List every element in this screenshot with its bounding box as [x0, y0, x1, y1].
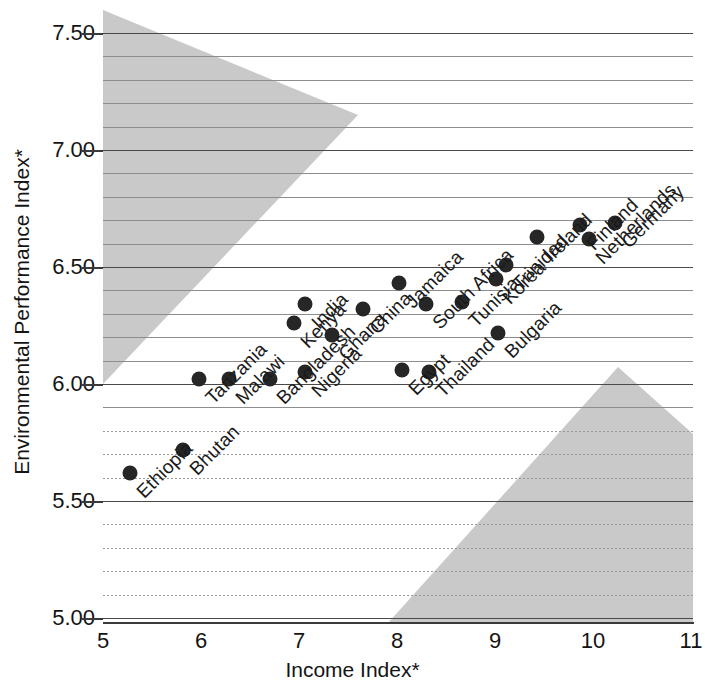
gridline-5.50	[103, 501, 693, 502]
gridline-6.90	[103, 173, 693, 174]
gridline-5.40	[103, 524, 693, 525]
x-tick-label: 8	[391, 628, 403, 654]
data-point	[394, 362, 409, 377]
gridline-7.30	[103, 80, 693, 81]
x-axis-line	[103, 622, 694, 624]
data-point	[297, 297, 312, 312]
gridline-5.60	[103, 478, 693, 479]
gridline-5.30	[103, 548, 693, 549]
plot-area: EthiopiaBhutanTanzaniaMalawiBangladeshKe…	[103, 10, 693, 623]
y-tick-mark	[82, 150, 103, 152]
gridline-7.40	[103, 56, 693, 57]
gridline-7.00	[103, 150, 693, 151]
gridline-5.90	[103, 407, 693, 408]
y-tick-mark	[82, 501, 103, 503]
data-point	[490, 325, 505, 340]
gridline-6.80	[103, 197, 693, 198]
gridline-5.00	[103, 618, 693, 619]
gridline-6.00	[103, 384, 693, 385]
gridline-7.20	[103, 103, 693, 104]
y-axis-title: Environmental Performance Index*	[10, 102, 34, 522]
data-point	[123, 465, 138, 480]
x-tick-label: 6	[195, 628, 207, 654]
x-axis-title: Income Index*	[0, 658, 705, 682]
lower-right-shaded-region	[388, 367, 693, 623]
gridline-5.20	[103, 571, 693, 572]
data-point	[530, 229, 545, 244]
gridline-6.20	[103, 337, 693, 338]
gridline-7.50	[103, 33, 693, 34]
y-tick-mark	[82, 267, 103, 269]
gridline-7.10	[103, 127, 693, 128]
data-point	[192, 372, 207, 387]
x-tick-label: 10	[581, 628, 605, 654]
gridline-5.10	[103, 595, 693, 596]
gridline-6.10	[103, 361, 693, 362]
y-tick-mark	[82, 384, 103, 386]
y-tick-mark	[82, 33, 103, 35]
gridline-5.80	[103, 431, 693, 432]
y-tick-mark	[82, 618, 103, 620]
scatter-chart-figure: 5.005.506.006.507.007.50 Environmental P…	[0, 0, 705, 687]
x-tick-label: 11	[680, 628, 703, 654]
data-point	[287, 316, 302, 331]
x-tick-label: 9	[489, 628, 501, 654]
x-tick-label: 5	[97, 628, 109, 654]
x-tick-label: 7	[293, 628, 305, 654]
